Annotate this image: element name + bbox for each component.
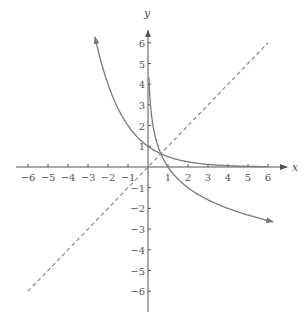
x-tick-label: 4 <box>225 172 231 183</box>
x-tick-label: −2 <box>101 172 116 183</box>
x-tick-label: 2 <box>185 172 191 183</box>
y-tick-label: 6 <box>139 38 145 49</box>
x-tick-label: 6 <box>265 172 271 183</box>
x-tick-label: −1 <box>121 172 136 183</box>
x-tick-label: −3 <box>81 172 96 183</box>
y-tick-label: −3 <box>130 224 145 235</box>
y-tick-label: −6 <box>130 286 145 297</box>
y-tick-label: −2 <box>130 203 145 214</box>
y-tick-label: 5 <box>139 59 145 70</box>
x-tick-label: 3 <box>205 172 211 183</box>
y-tick-label: 2 <box>139 121 145 132</box>
function-graph: −6−5−4−3−2−1123456654321−1−2−3−4−5−6 x y <box>0 0 307 322</box>
curve-exponential-half <box>95 37 268 167</box>
y-tick-label: −1 <box>130 183 145 194</box>
y-tick-label: 4 <box>139 79 145 90</box>
curve-log-half <box>149 78 273 222</box>
y-tick-label: −5 <box>130 266 145 277</box>
ticks: −6−5−4−3−2−1123456654321−1−2−3−4−5−6 <box>21 38 272 297</box>
y-tick-label: −4 <box>130 245 145 256</box>
y-tick-label: 3 <box>139 100 145 111</box>
x-tick-label: −5 <box>41 172 56 183</box>
curves <box>28 37 273 291</box>
x-tick-label: 1 <box>165 172 171 183</box>
x-tick-label: 5 <box>245 172 251 183</box>
x-tick-label: −6 <box>21 172 36 183</box>
x-tick-label: −4 <box>61 172 76 183</box>
x-axis-label: x <box>292 161 299 174</box>
y-axis-label: y <box>143 7 151 20</box>
